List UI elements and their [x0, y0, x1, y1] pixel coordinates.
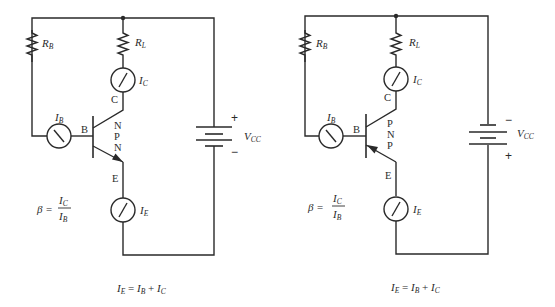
npn-base-terminal-label: B	[81, 124, 88, 135]
npn-ic-label: IC	[138, 74, 149, 88]
pnp-beta-formula: β = IC IB	[307, 192, 345, 222]
pnp-load-resistor-icon	[391, 16, 401, 67]
transistor-circuits-diagram: RB IB B RL IC C N P N E IE	[0, 0, 555, 307]
pnp-battery-bottom-sign: +	[505, 149, 512, 163]
pnp-layer-2: N	[387, 129, 395, 140]
npn-circuit: RB IB B RL IC C N P N E IE	[27, 16, 262, 296]
npn-base-left-wire	[32, 58, 47, 136]
npn-layer-3: N	[114, 142, 122, 153]
npn-battery-top-sign: +	[231, 111, 238, 125]
pnp-base-left-wire	[305, 58, 319, 136]
npn-load-resistor-icon	[118, 18, 128, 68]
pnp-layer-1: P	[387, 118, 393, 129]
pnp-base-terminal-label: B	[353, 124, 360, 135]
pnp-beta-denominator: IB	[332, 208, 342, 222]
npn-battery-bottom-sign: −	[231, 145, 238, 159]
npn-current-equation: IE = IB + IC	[116, 282, 167, 296]
npn-ie-label: IE	[139, 204, 149, 218]
npn-emitter-terminal-label: E	[112, 173, 118, 184]
pnp-vcc-label: VCC	[517, 127, 535, 141]
pnp-emitter-terminal-label: E	[385, 170, 391, 181]
npn-bottom-wire	[123, 146, 214, 255]
pnp-battery-top-sign: −	[505, 113, 512, 127]
npn-layer-1: N	[114, 120, 122, 131]
npn-layer-2: P	[114, 131, 120, 142]
npn-collector-terminal-label: C	[111, 94, 118, 105]
npn-beta-lhs: β =	[36, 203, 53, 215]
pnp-beta-lhs: β =	[307, 201, 324, 213]
pnp-bottom-wire	[396, 145, 488, 254]
npn-beta-formula: β = IC IB	[36, 194, 71, 224]
npn-ib-label: IB	[54, 111, 64, 125]
pnp-rl-label: RL	[408, 36, 420, 50]
pnp-current-equation: IE = IB + IC	[390, 281, 441, 295]
pnp-rb-label: RB	[315, 37, 328, 51]
npn-beta-numerator: IC	[58, 194, 69, 208]
pnp-circuit: RB IB B RL IC C P N P E IE	[300, 14, 535, 295]
npn-emitter-arrow-icon	[112, 154, 123, 163]
npn-rl-label: RL	[134, 36, 146, 50]
pnp-emitter-arrow-icon	[367, 145, 378, 154]
npn-beta-denominator: IB	[58, 210, 68, 224]
pnp-ie-label: IE	[412, 203, 422, 217]
pnp-collector-terminal-label: C	[384, 92, 391, 103]
npn-rb-label: RB	[41, 37, 54, 51]
pnp-layer-3: P	[387, 140, 393, 151]
pnp-beta-numerator: IC	[332, 192, 343, 206]
pnp-ic-label: IC	[412, 73, 423, 87]
npn-vcc-label: VCC	[244, 130, 262, 144]
pnp-ib-label: IB	[326, 111, 336, 125]
